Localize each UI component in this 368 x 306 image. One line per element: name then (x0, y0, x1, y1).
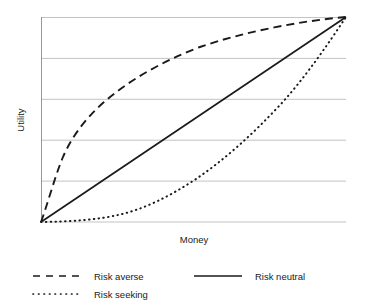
legend-label-risk-averse: Risk averse (94, 271, 144, 282)
legend-label-risk-neutral: Risk neutral (255, 271, 305, 282)
x-axis-title: Money (180, 234, 209, 245)
legend-label-risk-seeking: Risk seeking (94, 289, 148, 300)
chart-background (0, 0, 368, 306)
y-axis-title: Utility (15, 108, 26, 131)
utility-function-chart: Utility Money Risk averse Risk neutral R… (0, 0, 368, 306)
